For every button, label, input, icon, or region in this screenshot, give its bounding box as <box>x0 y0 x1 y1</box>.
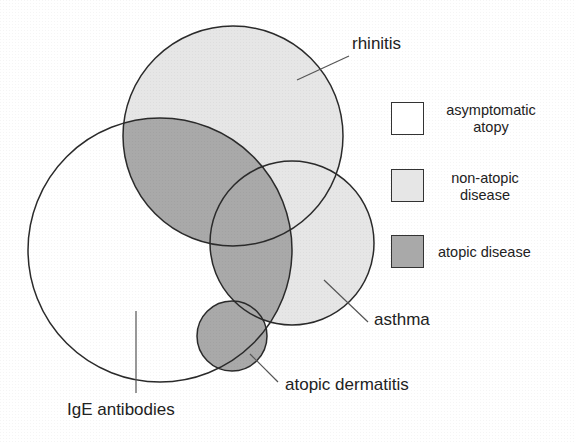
legend-swatch-atopic <box>391 235 424 268</box>
legend-item-atopic: atopic disease <box>438 244 558 261</box>
asthma-label: asthma <box>374 310 430 330</box>
dermatitis-label: atopic dermatitis <box>285 375 409 395</box>
legend-swatch-asymptomatic <box>391 102 424 135</box>
legend-item-non-atopic: non-atopic disease <box>430 170 540 204</box>
legend-swatch-non-atopic <box>391 169 424 202</box>
rhinitis-label: rhinitis <box>352 34 401 54</box>
legend-item-asymptomatic: asymptomatic atopy <box>436 102 546 136</box>
ige-label: IgE antibodies <box>67 400 175 420</box>
